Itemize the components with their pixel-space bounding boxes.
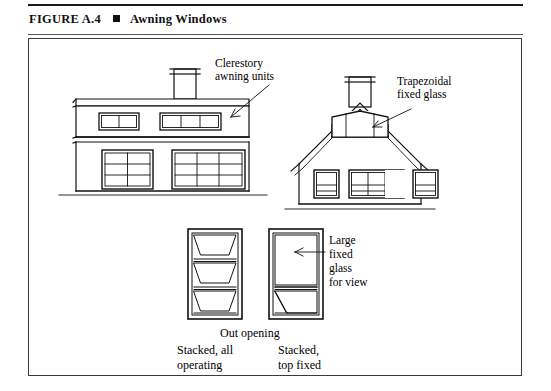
label-stacked-all-operating: Stacked, all operating [177,343,233,373]
figure-caption: FIGURE A.4Awning Windows [29,12,227,27]
stacked-all-operating-unit [188,229,242,319]
lower-window-group-left [102,150,153,189]
label-stacked-top-fixed: Stacked, top fixed [278,343,321,373]
caption-rule-top [28,4,523,6]
window-narrow-left-right-house [314,170,339,198]
label-large-fixed-glass-for-view: Large fixed glass for view [329,233,368,289]
figure-page: FIGURE A.4Awning Windows [0,0,551,391]
chimney-left [170,69,200,99]
clerestory-window-group-2pane [99,113,139,130]
ground-line-left [59,191,267,195]
figure-number: FIGURE A.4 [29,12,101,26]
figure-title: Awning Windows [130,12,227,26]
clerestory-window-group-3pane [160,113,221,130]
window-narrow-right-house-real-final [413,170,438,198]
square-marker-icon [113,15,120,22]
flat-roof-house-elevation [59,69,267,195]
label-trapezoidal-fixed-glass: Trapezoidal fixed glass [397,75,452,101]
fixed-light-large [275,235,317,290]
label-clerestory-awning-units: Clerestory awning units [215,57,274,83]
figure-caption-block: FIGURE A.4Awning Windows [28,4,523,36]
figure-frame: Clerestory awning units Trapezoidal fixe… [28,38,522,376]
label-out-opening: Out opening [220,327,280,340]
belt-course-left [73,137,249,143]
stacked-top-fixed-unit [269,229,323,319]
caption-rule-bottom [28,34,523,35]
lower-window-group-right [172,150,245,189]
awning-sash-3 [194,291,236,313]
window-narrow-right-true [385,170,407,198]
